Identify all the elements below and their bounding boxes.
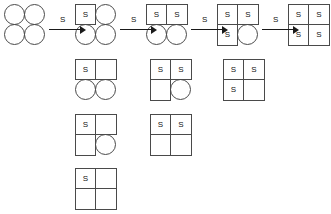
transition-arrow-3-4: S [262,16,300,36]
cluster-alt-row1-col2: SS [150,59,192,101]
circle-cell [4,4,25,25]
square-cell-labeled: S [308,24,330,46]
square-cell-empty [95,188,117,210]
square-cell-empty [170,134,192,156]
circle-cell [95,4,116,25]
square-cell-labeled: S [308,4,330,25]
cluster-alt-row2-col2: SS [150,114,192,156]
square-cell-labeled: S [150,59,171,80]
circle-cell [75,79,96,100]
square-cell-empty [150,134,171,156]
square-cell-labeled: S [170,59,192,80]
square-cell-labeled: S [166,4,188,25]
circle-cell [95,79,116,100]
arrow-head-icon [293,26,299,34]
cluster-alt-row3-col1: S [75,168,117,210]
arrow-head-icon [151,26,157,34]
square-cell-labeled: S [223,79,244,101]
arrow-label: S [131,16,136,24]
transition-arrow-1-2: S [120,16,158,36]
square-cell-labeled: S [150,114,171,135]
arrow-label: S [273,16,278,24]
arrow-label: S [202,16,207,24]
square-cell-labeled: S [170,114,192,135]
arrow-line [49,29,81,30]
arrow-line [191,29,223,30]
cluster-alt-row1-col3: SSS [223,59,265,101]
square-cell-empty [95,59,117,80]
arrow-line [120,29,152,30]
circle-cell [4,24,25,45]
transition-arrow-0-1: S [49,16,87,36]
circle-cell [24,24,45,45]
cluster-state-0 [4,4,46,46]
arrow-label: S [60,16,65,24]
circle-cell [237,24,258,45]
square-cell-empty [95,168,117,189]
square-cell-labeled: S [75,168,96,189]
square-cell-labeled: S [223,59,244,80]
arrow-head-icon [222,26,228,34]
square-cell-empty [75,134,96,156]
transition-arrow-2-3: S [191,16,229,36]
circle-cell [95,24,116,45]
arrow-head-icon [80,26,86,34]
cluster-alt-row2-col1: S [75,114,117,156]
square-cell-empty [150,79,171,101]
square-cell-labeled: S [243,59,265,80]
cluster-alt-row1-col1: S [75,59,117,101]
square-cell-labeled: S [75,114,96,135]
circle-cell [170,79,191,100]
arrow-line [262,29,294,30]
square-cell-empty [243,79,265,101]
square-cell-empty [95,114,117,135]
square-cell-empty [75,188,96,210]
circle-cell [95,134,116,155]
square-cell-labeled: S [237,4,259,25]
circle-cell [166,24,187,45]
square-cell-labeled: S [75,59,96,80]
circle-cell [24,4,45,25]
